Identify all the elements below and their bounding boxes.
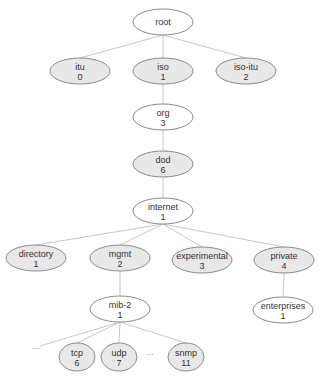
node-name-label: iso-itu [234, 62, 258, 72]
node-experimental: experimental3 [172, 247, 232, 273]
node-name-label: directory [19, 249, 54, 259]
node-tcp: tcp6 [59, 343, 95, 371]
node-private: private4 [254, 247, 314, 273]
node-name-label: snmp [175, 348, 197, 358]
node-name-label: root [155, 17, 171, 27]
node-name-label: enterprises [261, 301, 306, 311]
node-number-label: 2 [117, 259, 122, 269]
edge-internet-private [163, 224, 284, 247]
node-name-label: dod [155, 155, 170, 165]
node-name-label: itu [75, 62, 85, 72]
node-iso-itu: iso-itu2 [216, 58, 276, 84]
edge-root-itu [80, 35, 163, 58]
node-dod: dod6 [133, 151, 193, 177]
node-iso: iso1 [133, 58, 193, 84]
node-name-label: iso [157, 62, 169, 72]
oid-tree-diagram: rootitu0iso1iso-itu2org3dod6internet1dir… [0, 0, 327, 380]
node-number-label: 11 [181, 358, 190, 368]
edge-internet-directory [36, 224, 163, 245]
edge-root-iso-itu [163, 35, 246, 58]
node-directory: directory1 [6, 245, 66, 271]
node-name-label: experimental [176, 251, 228, 261]
node-name-label: tcp [71, 348, 83, 358]
node-number-label: 6 [74, 358, 79, 368]
node-number-label: 1 [160, 72, 165, 82]
node-number-label: 3 [199, 261, 204, 271]
node-internet: internet1 [133, 198, 193, 224]
node-name-label: udp [111, 348, 126, 358]
node-name-label: internet [148, 202, 179, 212]
edge-mib-2-udp [119, 322, 120, 343]
node-name-label: private [270, 251, 297, 261]
node-number-label: 1 [280, 311, 285, 321]
node-org: org3 [133, 104, 193, 130]
node-name-label: org [156, 108, 169, 118]
nodes-layer: rootitu0iso1iso-itu2org3dod6internet1dir… [6, 9, 314, 371]
node-number-label: 4 [281, 261, 286, 271]
node-number-label: 0 [77, 72, 82, 82]
node-root: root [133, 9, 193, 35]
node-name-label: mgmt [109, 249, 132, 259]
node-number-label: 7 [116, 358, 121, 368]
node-number-label: 1 [117, 310, 122, 320]
node-number-label: 3 [160, 118, 165, 128]
more-nodes-ellipsis: ... [146, 347, 154, 357]
more-nodes-ellipsis: ... [32, 341, 40, 351]
node-enterprises: enterprises1 [253, 297, 313, 323]
node-snmp: snmp11 [168, 343, 204, 371]
edge-private-enterprises [283, 273, 284, 297]
node-mgmt: mgmt2 [90, 245, 150, 271]
node-name-label: mib-2 [109, 300, 132, 310]
node-number-label: 6 [160, 165, 165, 175]
node-number-label: 1 [33, 259, 38, 269]
node-udp: udp7 [101, 343, 137, 371]
node-number-label: 2 [243, 72, 248, 82]
node-itu: itu0 [50, 58, 110, 84]
edge-mib-2-snmp [120, 322, 186, 343]
node-mib-2: mib-21 [90, 296, 150, 322]
node-number-label: 1 [160, 212, 165, 222]
edge-mib-2-more [40, 322, 120, 346]
